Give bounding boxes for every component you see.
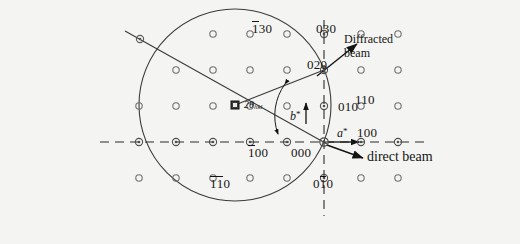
label-0bar10-pre: 0 bbox=[313, 176, 320, 191]
lattice-spot-bar5-bar1-0 bbox=[136, 175, 142, 181]
label-b-star: b* bbox=[290, 110, 301, 122]
diagram-svg bbox=[0, 0, 520, 244]
label-bar100-post: 00 bbox=[255, 145, 268, 160]
figure-canvas: 130 030 020 010 000 100 110 010 110 100 … bbox=[0, 0, 520, 244]
label-030: 030 bbox=[316, 22, 336, 35]
label-bar130-post: 30 bbox=[259, 21, 272, 36]
label-020-text: 020 bbox=[307, 57, 327, 72]
label-bar130-bar: 1 bbox=[252, 22, 259, 35]
lattice-spot-2-bar1-0 bbox=[395, 175, 401, 181]
lattice-spot-1-bar1-0 bbox=[358, 175, 364, 181]
label-bar1bar10: 110 bbox=[210, 177, 230, 190]
incident-beam-line bbox=[125, 31, 327, 144]
lattice-spot-bar1-2-0 bbox=[284, 67, 290, 73]
label-diffracted-beam-line1: Diffracted bbox=[344, 33, 393, 45]
label-0bar10-bar: 1 bbox=[320, 177, 327, 190]
label-bar100: 100 bbox=[248, 146, 268, 159]
label-diffracted-beam-line2: beam bbox=[344, 47, 370, 59]
label-bar1bar10-bar2: 1 bbox=[217, 177, 224, 190]
label-100: 100 bbox=[357, 126, 377, 139]
lattice-spot-bar2-2-0 bbox=[247, 67, 253, 73]
lattice-spot-bar4-2-0 bbox=[173, 67, 179, 73]
lattice-spot-2-1-0 bbox=[395, 103, 401, 109]
label-bar1bar10-bar1: 1 bbox=[210, 177, 217, 190]
lattice-spot-1-2-0 bbox=[358, 67, 364, 73]
label-bar100-bar: 1 bbox=[248, 146, 255, 159]
lattice-spot-bar2-bar1-0 bbox=[247, 175, 253, 181]
label-bar130: 130 bbox=[252, 22, 272, 35]
lattice-spot-bar1-3-0 bbox=[284, 31, 290, 37]
label-direct-beam: direct beam bbox=[367, 150, 433, 164]
label-110: 110 bbox=[355, 93, 375, 106]
lattice-spot-2-3-0 bbox=[395, 31, 401, 37]
lattice-spot-bar1-bar1-0 bbox=[284, 175, 290, 181]
lattice-spot-bar3-2-0 bbox=[210, 67, 216, 73]
label-two-theta-subscript: hkl bbox=[254, 103, 263, 111]
label-a-star-superscript: * bbox=[343, 126, 348, 136]
label-000: 000 bbox=[291, 146, 311, 159]
label-020: 020 bbox=[307, 58, 327, 71]
direct-beam-arrow bbox=[327, 145, 363, 158]
lattice-spot-2-2-0 bbox=[395, 67, 401, 73]
label-0bar10-post: 0 bbox=[326, 176, 333, 191]
label-bar1bar10-post: 0 bbox=[223, 176, 230, 191]
lattice-spot-bar3-3-0 bbox=[210, 31, 216, 37]
label-0bar10: 010 bbox=[313, 177, 333, 190]
lattice-spot-bar3-1-0 bbox=[210, 103, 216, 109]
label-two-theta-symbol: 2θ bbox=[244, 99, 254, 110]
label-a-star: a* bbox=[337, 127, 348, 139]
label-two-theta: 2θhkl bbox=[244, 100, 262, 111]
lattice-spot-bar4-1-0 bbox=[173, 103, 179, 109]
two-theta-arc bbox=[275, 84, 285, 134]
label-b-star-superscript: * bbox=[296, 109, 301, 119]
